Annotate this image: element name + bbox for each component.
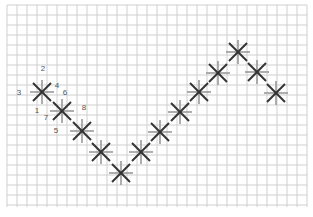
double-cross-stitch <box>50 99 74 123</box>
double-cross-stitch <box>264 81 288 105</box>
step-number-label: 2 <box>41 64 46 73</box>
double-cross-stitch <box>168 100 192 124</box>
step-number-label: 3 <box>17 88 22 97</box>
step-number-label: 5 <box>54 126 59 135</box>
stitch-diagram: 23461785 <box>0 0 313 217</box>
double-cross-stitch <box>226 40 250 64</box>
grid <box>7 5 307 207</box>
double-cross-stitch <box>30 80 54 104</box>
double-cross-stitch <box>245 60 269 84</box>
stitch-row <box>30 40 288 185</box>
step-number-label: 4 <box>55 81 60 90</box>
double-cross-stitch <box>109 161 133 185</box>
step-number-label: 6 <box>63 88 68 97</box>
double-cross-stitch <box>129 140 153 164</box>
double-cross-stitch <box>148 120 172 144</box>
double-cross-stitch <box>70 119 94 143</box>
step-number-label: 1 <box>35 106 40 115</box>
step-number-label: 7 <box>44 113 49 122</box>
double-cross-stitch <box>187 80 211 104</box>
step-number-label: 8 <box>82 103 87 112</box>
double-cross-stitch <box>206 61 230 85</box>
double-cross-stitch <box>89 140 113 164</box>
